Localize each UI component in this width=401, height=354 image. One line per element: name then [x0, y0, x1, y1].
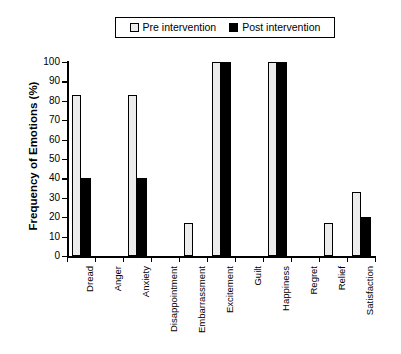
y-axis-tick-label: 70 [49, 115, 60, 125]
y-axis-tick-label: 30 [49, 193, 60, 203]
plot-area: 0102030405060708090100 [67, 62, 375, 256]
y-axis-tick-label: 90 [49, 76, 60, 86]
y-axis-title: Frequency of Emotions (%) [27, 51, 39, 261]
x-axis-label-embarrassment: Embarrassment [197, 266, 207, 333]
x-axis-label-excitement: Excitement [225, 266, 235, 313]
x-axis-tick [207, 257, 208, 262]
y-axis-tick-label: 100 [43, 57, 60, 67]
y-axis-tick [62, 237, 67, 238]
x-axis-label-anger: Anger [113, 266, 123, 291]
y-axis-tick [62, 140, 67, 141]
bar-dread-post [81, 178, 91, 256]
x-axis-label-relief: Relief [337, 266, 347, 290]
bar-embarrassment-pre [184, 223, 194, 256]
x-axis-line [67, 256, 376, 258]
chart-legend: Pre intervention Post intervention [115, 17, 335, 38]
legend-swatch-post-icon [229, 23, 238, 32]
legend-swatch-pre-icon [130, 23, 139, 32]
bar-chart-figure: Pre intervention Post intervention Frequ… [0, 0, 401, 354]
y-axis-tick-label: 10 [49, 232, 60, 242]
x-axis-tick [235, 257, 236, 262]
bar-anxiety-pre [128, 95, 138, 256]
x-axis-tick [347, 257, 348, 262]
y-axis-tick-label: 60 [49, 135, 60, 145]
y-axis-tick-label: 20 [49, 212, 60, 222]
x-axis-label-disappointment: Disappointment [169, 266, 179, 332]
y-axis-tick-label: 0 [54, 251, 60, 261]
x-axis-label-satisfaction: Satisfaction [365, 266, 375, 315]
bar-satisfaction-post [361, 217, 371, 256]
x-axis-tick [123, 257, 124, 262]
bar-dread-pre [72, 95, 82, 256]
x-axis-label-guilt: Guilt [253, 266, 263, 286]
y-axis-tick [62, 81, 67, 82]
y-axis-tick [62, 120, 67, 121]
x-axis-tick [95, 257, 96, 262]
legend-label-post: Post intervention [242, 22, 320, 33]
bar-happiness-post [277, 62, 287, 256]
y-axis-tick [62, 101, 67, 102]
y-axis-tick [62, 198, 67, 199]
legend-label-pre: Pre intervention [143, 22, 217, 33]
x-axis-tick [263, 257, 264, 262]
y-axis-tick-label: 50 [49, 154, 60, 164]
legend-item-pre-intervention: Pre intervention [130, 22, 217, 33]
bar-anxiety-post [137, 178, 147, 256]
x-axis-label-regret: Regret [309, 266, 319, 295]
x-axis-label-dread: Dread [85, 266, 95, 292]
bar-excitement-pre [212, 62, 222, 256]
legend-item-post-intervention: Post intervention [229, 22, 320, 33]
y-axis-tick [62, 178, 67, 179]
y-axis-tick [62, 62, 67, 63]
bar-relief-pre [324, 223, 334, 256]
x-axis-label-happiness: Happiness [281, 266, 291, 311]
x-axis-tick [291, 257, 292, 262]
x-axis-tick [319, 257, 320, 262]
x-axis-tick [67, 257, 68, 262]
bar-happiness-pre [268, 62, 278, 256]
bar-excitement-post [221, 62, 231, 256]
x-axis-tick [375, 257, 376, 262]
x-axis-label-anxiety: Anxiety [141, 266, 151, 297]
y-axis-tick-label: 80 [49, 96, 60, 106]
y-axis-tick [62, 159, 67, 160]
x-axis-tick [179, 257, 180, 262]
y-axis-tick [62, 217, 67, 218]
y-axis-tick-label: 40 [49, 173, 60, 183]
bar-satisfaction-pre [352, 192, 362, 256]
x-axis-tick [151, 257, 152, 262]
